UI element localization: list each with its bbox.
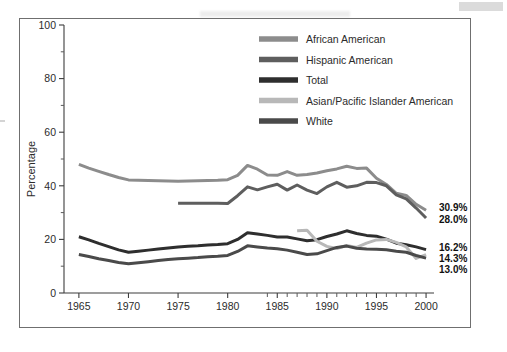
- end-label-2: 16.2%: [439, 242, 467, 253]
- end-label-0: 30.9%: [439, 202, 467, 213]
- end-label-1: 28.0%: [439, 214, 467, 225]
- legend-label-4: White: [306, 115, 333, 127]
- line-chart: 0204060801001965197019751980198519901995…: [20, 19, 470, 327]
- scan-artifact-top-right: [459, 2, 503, 11]
- figure-container: 0204060801001965197019751980198519901995…: [0, 0, 507, 352]
- end-labels: 30.9%28.0%16.2%14.3%13.0%: [439, 202, 467, 274]
- x-tick-label: 1975: [166, 300, 190, 312]
- x-tick-label: 1980: [216, 300, 240, 312]
- x-tick-label: 1990: [315, 300, 339, 312]
- series-layer: [79, 164, 426, 263]
- legend-label-2: Total: [306, 74, 328, 86]
- chart-legend: African AmericanHispanic AmericanTotalAs…: [259, 33, 453, 127]
- chart-frame: 0204060801001965197019751980198519901995…: [19, 18, 471, 328]
- y-tick-label: 40: [44, 180, 56, 192]
- x-tick-label: 1965: [67, 300, 91, 312]
- legend-label-0: African American: [306, 33, 386, 45]
- y-axis-title: Percentage: [25, 141, 37, 197]
- legend-label-1: Hispanic American: [306, 54, 393, 66]
- x-tick-label: 1995: [365, 300, 389, 312]
- scan-artifact-left-edge: [0, 120, 5, 122]
- x-tick-label: 1970: [117, 300, 141, 312]
- y-tick-label: 20: [44, 233, 56, 245]
- series-line-1: [178, 182, 426, 218]
- y-tick-label: 80: [44, 72, 56, 84]
- legend-label-3: Asian/Pacific Islander American: [306, 95, 453, 107]
- x-tick-label: 1985: [266, 300, 290, 312]
- y-tick-label: 100: [38, 19, 56, 31]
- x-tick-label: 2000: [414, 300, 438, 312]
- y-tick-label: 0: [50, 287, 56, 299]
- y-tick-label: 60: [44, 126, 56, 138]
- end-label-4: 13.0%: [439, 264, 467, 275]
- series-line-4: [79, 246, 426, 264]
- end-label-3: 14.3%: [439, 253, 467, 264]
- scan-artifact-top: [200, 11, 350, 17]
